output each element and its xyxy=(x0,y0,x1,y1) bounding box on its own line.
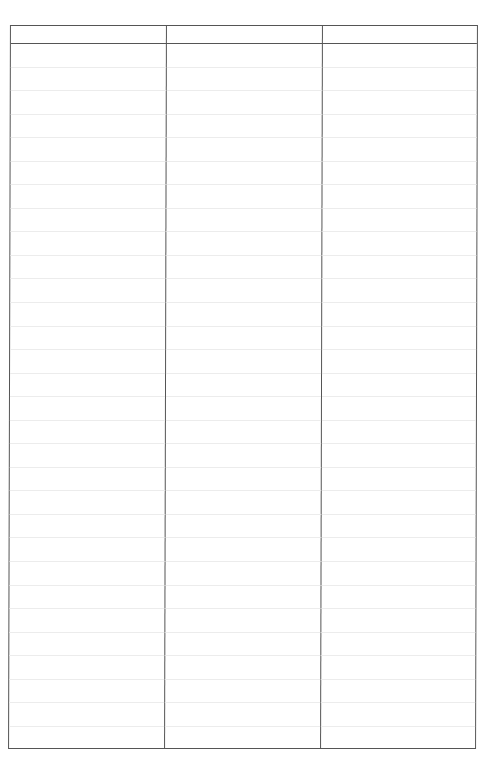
table-cell xyxy=(166,185,321,209)
table-cell xyxy=(323,68,477,92)
table-cell xyxy=(10,397,165,421)
table-cell xyxy=(322,468,476,492)
table-cell xyxy=(321,562,475,586)
table-cell xyxy=(166,444,321,468)
table-cell xyxy=(9,586,164,610)
table-cell xyxy=(10,209,165,233)
table-cell xyxy=(323,91,477,115)
table-cell xyxy=(323,162,477,186)
table-cell xyxy=(322,444,476,468)
table-cell xyxy=(167,138,322,162)
table-cell xyxy=(166,374,321,398)
table-cell xyxy=(322,515,476,539)
table-cell xyxy=(165,656,320,680)
table-cell xyxy=(11,115,166,139)
table-cell xyxy=(166,468,321,492)
table-cell xyxy=(323,44,477,68)
table-cell xyxy=(322,303,476,327)
table-cell xyxy=(166,327,321,351)
table-cell xyxy=(322,185,476,209)
table-cell xyxy=(10,256,165,280)
header-cell-1 xyxy=(11,26,167,43)
table-cell xyxy=(321,633,475,657)
table-cell xyxy=(322,350,476,374)
table-cell xyxy=(10,232,165,256)
table-cell xyxy=(9,562,164,586)
table-cell xyxy=(10,327,165,351)
table-cell xyxy=(9,609,164,633)
table-cell xyxy=(167,115,322,139)
table-cell xyxy=(11,162,166,186)
table-cell xyxy=(10,421,165,445)
table-cell xyxy=(323,138,477,162)
table-cell xyxy=(10,374,165,398)
header-cell-3 xyxy=(323,26,477,43)
table-cell xyxy=(165,609,320,633)
table-cell xyxy=(10,468,165,492)
table-cell xyxy=(165,680,320,704)
column-3 xyxy=(321,44,477,748)
table-cell xyxy=(322,232,476,256)
table-cell xyxy=(166,515,321,539)
table-cell xyxy=(10,515,165,539)
table-cell xyxy=(11,138,166,162)
table-cell xyxy=(321,609,475,633)
table-cell xyxy=(322,256,476,280)
blank-ruled-table xyxy=(8,25,478,749)
table-header xyxy=(11,26,477,44)
table-cell xyxy=(322,374,476,398)
table-cell xyxy=(321,656,475,680)
table-cell xyxy=(165,562,320,586)
table-cell xyxy=(166,421,321,445)
table-cell xyxy=(166,232,321,256)
table-cell xyxy=(167,68,322,92)
table-cell xyxy=(9,680,164,704)
table-cell xyxy=(167,44,322,68)
table-cell xyxy=(11,44,166,68)
table-cell xyxy=(166,279,321,303)
table-cell xyxy=(10,279,165,303)
table-cell xyxy=(166,538,321,562)
table-cell xyxy=(322,538,476,562)
table-cell xyxy=(11,68,166,92)
table-cell xyxy=(10,444,165,468)
table-cell xyxy=(9,656,164,680)
table-cell xyxy=(166,397,321,421)
table-cell xyxy=(165,703,320,727)
table-cell xyxy=(166,256,321,280)
table-cell xyxy=(166,350,321,374)
table-cell xyxy=(321,703,475,727)
table-cell xyxy=(165,633,320,657)
table-cell xyxy=(10,538,165,562)
table-cell xyxy=(323,115,477,139)
table-cell xyxy=(9,633,164,657)
table-cell xyxy=(322,327,476,351)
table-cell xyxy=(322,491,476,515)
table-cell xyxy=(321,680,475,704)
table-cell xyxy=(167,91,322,115)
table-cell xyxy=(322,397,476,421)
column-2 xyxy=(165,44,323,748)
table-cell xyxy=(322,209,476,233)
table-cell xyxy=(322,421,476,445)
table-cell xyxy=(166,209,321,233)
table-cell xyxy=(166,491,321,515)
table-cell xyxy=(10,185,165,209)
table-cell xyxy=(165,727,320,751)
table-cell xyxy=(321,727,475,751)
table-cell xyxy=(10,303,165,327)
table-cell xyxy=(10,350,165,374)
table-cell xyxy=(10,491,165,515)
table-cell xyxy=(167,162,322,186)
table-cell xyxy=(165,586,320,610)
table-cell xyxy=(321,586,475,610)
table-cell xyxy=(322,279,476,303)
column-1 xyxy=(9,44,167,748)
table-cell xyxy=(9,703,164,727)
table-body xyxy=(9,44,477,748)
header-cell-2 xyxy=(167,26,323,43)
table-cell xyxy=(166,303,321,327)
table-cell xyxy=(11,91,166,115)
table-cell xyxy=(9,727,164,751)
